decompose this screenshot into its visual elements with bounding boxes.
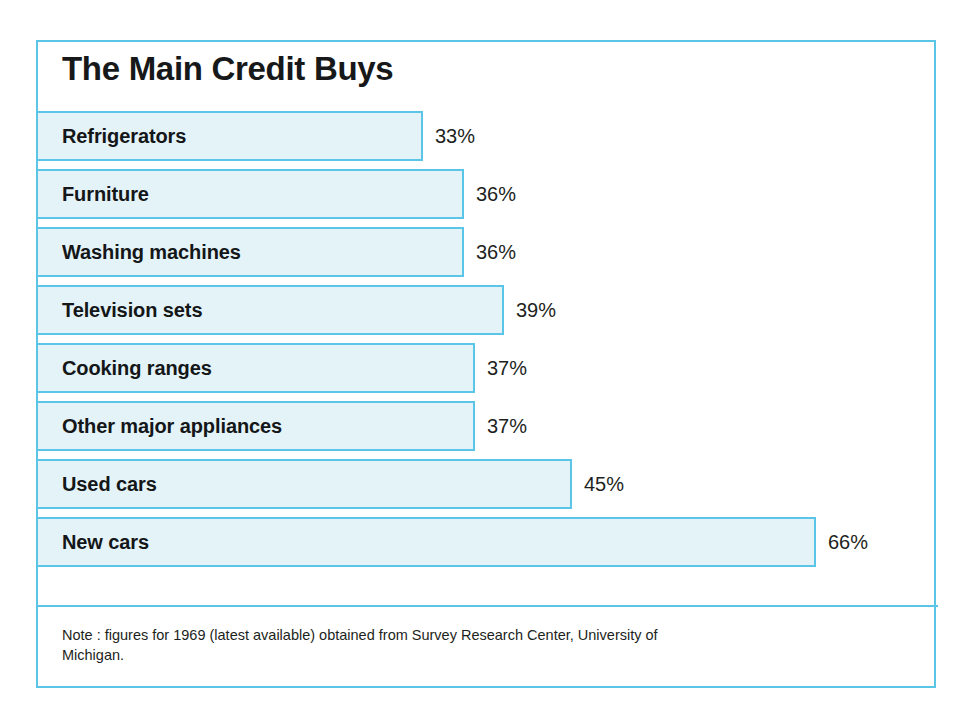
bar-label: Washing machines [62,227,241,277]
bar-value: 36% [476,227,516,277]
bar-label: Furniture [62,169,149,219]
bar-new-cars [38,517,816,567]
bar-value: 37% [487,401,527,451]
note-divider [38,605,938,607]
bar-row: Washing machines 36% [38,227,938,285]
bar-label: Refrigerators [62,111,186,161]
bar-value: 39% [516,285,556,335]
bar-value: 37% [487,343,527,393]
bar-label: Other major appliances [62,401,282,451]
chart-title: The Main Credit Buys [62,50,393,88]
bar-label: Television sets [62,285,202,335]
bar-value: 66% [828,517,868,567]
bar-value: 36% [476,169,516,219]
bar-label: Used cars [62,459,157,509]
chart-note: Note : figures for 1969 (latest availabl… [62,625,702,665]
bar-value: 45% [584,459,624,509]
bar-row: Used cars 45% [38,459,938,517]
bar-row: Other major appliances 37% [38,401,938,459]
bar-label: Cooking ranges [62,343,212,393]
bar-row: Television sets 39% [38,285,938,343]
bar-label: New cars [62,517,149,567]
bar-row: Furniture 36% [38,169,938,227]
bar-value: 33% [435,111,475,161]
bar-chart-bars: Refrigerators 33% Furniture 36% Washing … [38,111,938,575]
bar-row: Refrigerators 33% [38,111,938,169]
bar-row: New cars 66% [38,517,938,575]
chart-frame: The Main Credit Buys Refrigerators 33% F… [36,40,936,688]
bar-row: Cooking ranges 37% [38,343,938,401]
